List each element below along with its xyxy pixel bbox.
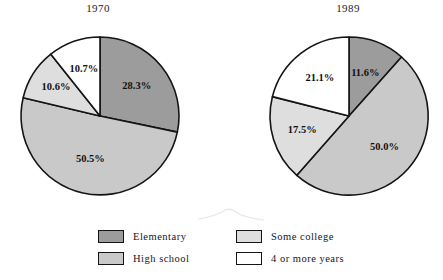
pie-slice-label-high-school: 50.5% [76, 153, 105, 164]
pie-slice-label-4-or-more-years: 10.7% [69, 63, 98, 74]
legend-item-high-school: High school [98, 252, 236, 265]
pie-slice-label-some-college: 17.5% [288, 124, 317, 135]
pie-chart-1989: 1989 11.6%50.0%17.5%21.1% [243, 0, 443, 215]
legend-label-elementary: Elementary [133, 231, 186, 242]
pie-slice-label-high-school: 50.0% [370, 141, 399, 152]
legend-item-some-college: Some college [236, 230, 388, 243]
legend-swatch-elementary [98, 230, 124, 243]
pie-chart-1970: 1970 28.3%50.5%10.6%10.7% [0, 0, 200, 215]
legend-item-elementary: Elementary [98, 230, 236, 243]
legend-item-four-or-more-years: 4 or more years [236, 252, 388, 265]
legend-swatch-some-college [236, 230, 262, 243]
pie-area-1970: 28.3%50.5%10.6%10.7% [0, 33, 200, 208]
legend-label-some-college: Some college [271, 231, 334, 242]
pie-slice-label-elementary: 11.6% [351, 67, 379, 78]
pie-slice-label-4-or-more-years: 21.1% [305, 72, 334, 83]
pie-svg-1970: 28.3%50.5%10.6%10.7% [17, 33, 183, 199]
pie-slices-1989 [270, 37, 428, 195]
legend-swatch-high-school [98, 252, 124, 265]
legend-label-high-school: High school [133, 253, 190, 264]
chart-title-1970: 1970 [0, 2, 198, 14]
legend-label-four-or-more-years: 4 or more years [271, 253, 344, 264]
pie-svg-1989: 11.6%50.0%17.5%21.1% [266, 33, 432, 199]
pie-slices-1970 [21, 37, 179, 195]
chart-legend: Elementary Some college High school 4 or… [98, 225, 388, 271]
legend-swatch-four-or-more-years [236, 252, 262, 265]
pie-chart-figure: 1970 28.3%50.5%10.6%10.7% 1989 11.6%50.0… [0, 0, 443, 280]
chart-title-1989: 1989 [248, 2, 443, 14]
pie-slice-label-elementary: 28.3% [122, 80, 151, 91]
pie-slice-label-some-college: 10.6% [42, 81, 71, 92]
pie-area-1989: 11.6%50.0%17.5%21.1% [243, 33, 443, 208]
